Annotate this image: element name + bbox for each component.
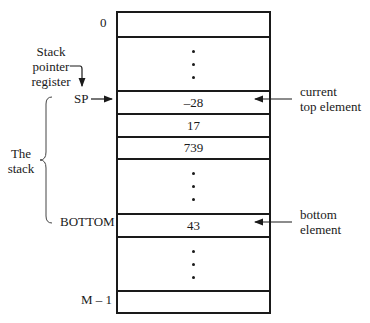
the-stack-label: The stack <box>6 146 36 176</box>
ellipsis-cell-2 <box>118 158 269 213</box>
bottom-label: BOTTOM <box>60 214 115 229</box>
memory-stack: –28 17 739 43 <box>116 11 271 314</box>
cell-value: 739 <box>184 140 204 156</box>
cell-value: –28 <box>184 95 204 111</box>
ellipsis-cell-1 <box>118 36 269 90</box>
label-line: The <box>6 146 36 161</box>
stack-brace <box>40 97 52 223</box>
label-line: Stack <box>26 44 76 59</box>
stack-cell-17: 17 <box>118 113 269 136</box>
label-line: register <box>26 74 76 89</box>
label-line: pointer <box>26 59 76 74</box>
label-line: current <box>300 84 361 99</box>
cell-value: 17 <box>187 118 200 134</box>
ellipsis-icon <box>192 172 195 201</box>
address-last-label: M – 1 <box>81 292 112 307</box>
label-line: top element <box>300 99 361 114</box>
stack-pointer-register-label: Stack pointer register <box>26 44 76 89</box>
address-zero-label: 0 <box>100 15 107 30</box>
memory-cell-last <box>118 290 269 312</box>
memory-cell-0 <box>118 13 269 36</box>
bottom-element-label: bottom element <box>300 207 341 237</box>
sp-label: SP <box>74 91 88 106</box>
label-line: bottom <box>300 207 341 222</box>
cell-value: 43 <box>187 218 200 234</box>
top-element-cell: –28 <box>118 90 269 113</box>
current-top-element-label: current top element <box>300 84 361 114</box>
ellipsis-icon <box>192 50 195 79</box>
ellipsis-cell-3 <box>118 236 269 290</box>
label-line: element <box>300 222 341 237</box>
label-line: stack <box>6 161 36 176</box>
ellipsis-icon <box>192 250 195 279</box>
stack-cell-739: 739 <box>118 136 269 158</box>
bottom-element-cell: 43 <box>118 213 269 236</box>
